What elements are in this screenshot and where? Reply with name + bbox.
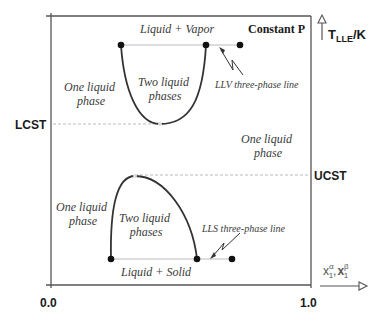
y-axis-label: TLLE/K bbox=[328, 27, 367, 44]
lls-point-middle bbox=[194, 256, 201, 263]
llv-point-right bbox=[237, 42, 244, 49]
chart-title: Constant P bbox=[248, 22, 305, 36]
x-tick-max: 1.0 bbox=[300, 296, 317, 310]
ucst-point bbox=[133, 174, 137, 178]
upper-two-liquid-label: Two liquid phases bbox=[138, 75, 192, 103]
llv-point-left bbox=[118, 42, 125, 49]
liquid-vapor-label: Liquid + Vapor bbox=[139, 22, 214, 36]
ucst-label: UCST bbox=[314, 169, 347, 183]
phase-diagram: TLLE/K xα1,xβ1 0.0 1.0 Constant P LCST U… bbox=[0, 0, 378, 324]
x-tick-min: 0.0 bbox=[40, 296, 57, 310]
llv-point-middle bbox=[203, 42, 210, 49]
lls-annotation: LLS three-phase line bbox=[201, 223, 286, 234]
lower-left-one-liquid-label: One liquid phase bbox=[56, 200, 110, 228]
lls-point-right bbox=[229, 256, 236, 263]
llv-annotation: LLV three-phase line bbox=[214, 79, 299, 90]
lls-point-left bbox=[108, 256, 115, 263]
lcst-point bbox=[158, 122, 162, 126]
lower-two-liquid-label: Two liquid phases bbox=[119, 211, 173, 239]
upper-left-one-liquid-label: One liquid phase bbox=[64, 80, 118, 108]
lcst-label: LCST bbox=[15, 118, 47, 132]
lls-pointer-arrow-icon bbox=[210, 233, 240, 259]
liquid-solid-label: Liquid + Solid bbox=[120, 265, 192, 279]
llv-pointer-arrow-icon bbox=[219, 47, 243, 75]
x-axis-arrow-icon bbox=[320, 282, 367, 290]
x-axis-label: xα1,xβ1 bbox=[323, 262, 349, 280]
y-axis-arrow-icon bbox=[318, 15, 326, 40]
right-one-liquid-label: One liquid phase bbox=[241, 132, 295, 160]
